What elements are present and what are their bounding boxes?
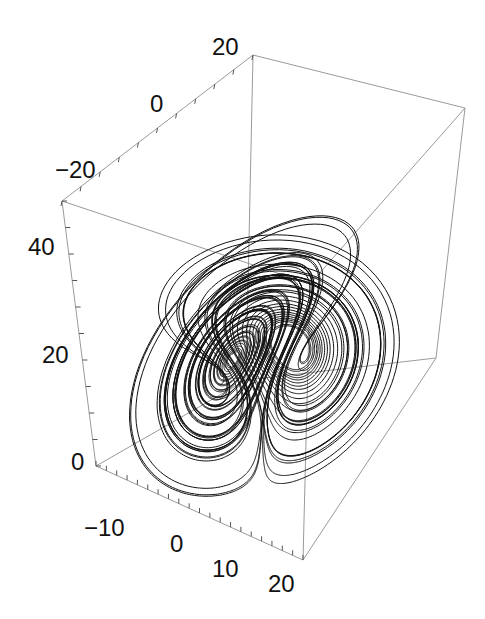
box-edge-inner-right (310, 108, 465, 284)
box-edge-top-back (253, 55, 465, 108)
x-tick-label: −10 (84, 514, 125, 541)
z-tick-label: 0 (71, 448, 84, 475)
x-tick-label: 0 (170, 530, 183, 557)
y-tick-label: 20 (212, 33, 239, 60)
box-edge-bottom-right (303, 358, 436, 560)
box-edge-right (436, 108, 465, 358)
y-axis-labels: 20 0 −20 (55, 33, 239, 183)
y-tick-label: 0 (150, 90, 163, 117)
z-tick-label: 40 (28, 233, 55, 260)
lorenz-trajectory (130, 216, 400, 497)
x-axis-labels: −10 0 10 20 (84, 514, 295, 597)
x-tick-label: 10 (212, 555, 239, 582)
x-tick-label: 20 (268, 570, 295, 597)
y-tick-label: −20 (55, 156, 96, 183)
lorenz-attractor-plot: 20 0 −20 40 20 0 −10 0 10 20 (0, 0, 485, 619)
z-axis-labels: 40 20 0 (28, 233, 84, 475)
z-tick-label: 20 (42, 341, 69, 368)
